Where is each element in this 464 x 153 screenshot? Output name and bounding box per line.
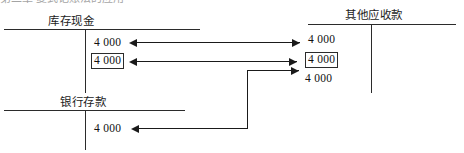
t-rule-other-receivables — [308, 24, 456, 25]
arrowhead-right-row-3 — [291, 67, 299, 75]
amount-bank-deposit-1: 4 000 — [94, 122, 121, 134]
connector-line-row-3-bottom — [139, 128, 248, 129]
account-title-other-receivables: 其他应收款 — [345, 6, 403, 22]
account-title-cash-on-hand: 库存现金 — [48, 12, 94, 28]
arrowhead-right-row-2 — [289, 58, 297, 66]
t-divider-bank-deposit — [85, 110, 86, 150]
arrowhead-right-row-1 — [292, 39, 300, 47]
arrowhead-left-row-1 — [129, 39, 137, 47]
amount-cash-on-hand-1: 4 000 — [94, 36, 121, 48]
arrowhead-left-row-3 — [131, 125, 139, 133]
connector-line-row-3-riser — [247, 70, 248, 129]
connector-line-row-1 — [137, 42, 300, 43]
t-divider-cash-on-hand — [85, 29, 86, 93]
amount-other-receivables-3: 4 000 — [305, 72, 332, 84]
account-title-bank-deposit: 银行存款 — [60, 93, 106, 109]
page-caption: 第二章 复式记账法的应用 — [0, 0, 200, 4]
arrowhead-left-row-2 — [129, 58, 137, 66]
t-divider-other-receivables — [371, 24, 372, 93]
t-rule-bank-deposit — [4, 110, 185, 111]
amount-other-receivables-2: 4 000 — [305, 52, 338, 68]
connector-line-row-2 — [137, 61, 297, 62]
t-account-diagram: 第二章 复式记账法的应用 库存现金 4 000 4 000 银行存款 4 000… — [0, 0, 464, 153]
t-rule-cash-on-hand — [4, 29, 200, 30]
amount-cash-on-hand-2: 4 000 — [91, 53, 124, 69]
amount-other-receivables-1: 4 000 — [308, 33, 335, 45]
